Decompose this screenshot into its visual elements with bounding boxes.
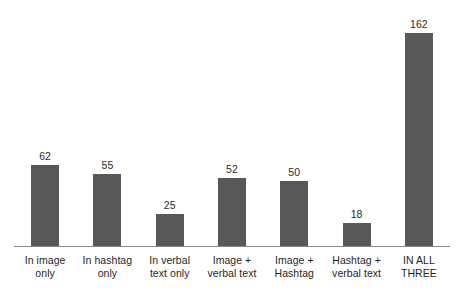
category-label-in-verbal-text-only: In verbal text only xyxy=(139,250,201,296)
category-label-line: THREE xyxy=(388,267,450,280)
category-label-line: verbal text xyxy=(325,267,387,280)
bar-value-label: 25 xyxy=(164,199,176,211)
bar-group-in-verbal-text-only: 25 xyxy=(139,0,201,247)
category-label-line: only xyxy=(76,267,138,280)
category-label-line: In image xyxy=(14,254,76,267)
category-labels-row: In image only In hashtag only In verbal … xyxy=(14,250,450,296)
bars-row: 62 55 25 52 50 18 xyxy=(14,0,450,247)
bar-value-label: 162 xyxy=(410,18,428,30)
bar-rect[interactable] xyxy=(31,165,59,247)
bar-value-label: 52 xyxy=(226,163,238,175)
category-label-in-image-only: In image only xyxy=(14,250,76,296)
bar-value-label: 62 xyxy=(39,150,51,162)
category-label-line: Image + xyxy=(201,254,263,267)
bar-group-image-plus-verbal-text: 52 xyxy=(201,0,263,247)
category-label-line: Hashtag xyxy=(263,267,325,280)
category-label-line: In verbal xyxy=(139,254,201,267)
category-label-line: Hashtag + xyxy=(325,254,387,267)
bar-chart: 62 55 25 52 50 18 xyxy=(0,0,459,296)
bar-value-label: 50 xyxy=(288,166,300,178)
bar-group-in-hashtag-only: 55 xyxy=(76,0,138,247)
category-label-line: verbal text xyxy=(201,267,263,280)
bar-group-image-plus-hashtag: 50 xyxy=(263,0,325,247)
category-label-in-all-three: IN ALL THREE xyxy=(388,250,450,296)
category-label-line: text only xyxy=(139,267,201,280)
bar-group-hashtag-plus-verbal-text: 18 xyxy=(325,0,387,247)
category-label-line: In hashtag xyxy=(76,254,138,267)
bar-rect[interactable] xyxy=(156,214,184,247)
bar-value-label: 55 xyxy=(101,159,113,171)
bar-rect[interactable] xyxy=(405,33,433,247)
category-label-hashtag-plus-verbal-text: Hashtag + verbal text xyxy=(325,250,387,296)
category-label-image-plus-hashtag: Image + Hashtag xyxy=(263,250,325,296)
bar-group-in-all-three: 162 xyxy=(388,0,450,247)
category-label-image-plus-verbal-text: Image + verbal text xyxy=(201,250,263,296)
category-label-line: Image + xyxy=(263,254,325,267)
category-label-line: IN ALL xyxy=(388,254,450,267)
category-label-in-hashtag-only: In hashtag only xyxy=(76,250,138,296)
bar-rect[interactable] xyxy=(218,178,246,247)
bar-rect[interactable] xyxy=(93,174,121,247)
plot-area: 62 55 25 52 50 18 xyxy=(0,0,459,248)
bar-rect[interactable] xyxy=(280,181,308,247)
bar-value-label: 18 xyxy=(351,208,363,220)
bar-rect[interactable] xyxy=(343,223,371,247)
x-axis-baseline xyxy=(14,246,450,247)
bar-group-in-image-only: 62 xyxy=(14,0,76,247)
category-label-line: only xyxy=(14,267,76,280)
